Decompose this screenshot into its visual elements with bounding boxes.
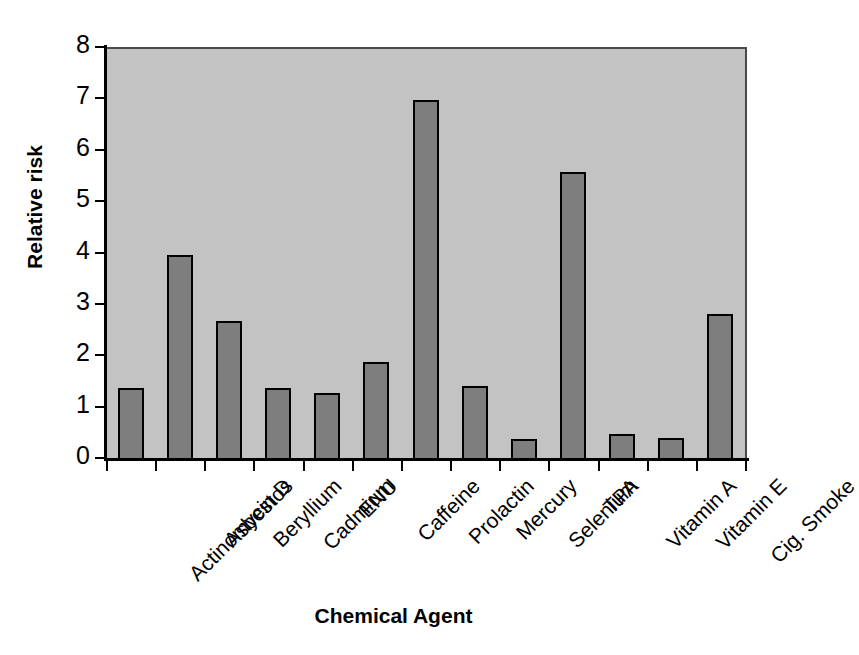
x-axis-tick: [647, 460, 649, 471]
x-axis-tick: [696, 460, 698, 471]
bar: [609, 434, 635, 460]
y-axis-tick: [95, 303, 106, 305]
plot-area: [106, 47, 747, 460]
y-axis-tick: [95, 200, 106, 202]
y-axis-tick: [95, 149, 106, 151]
y-axis-tick-label: 4: [50, 236, 90, 265]
y-axis-tick-label: 8: [50, 30, 90, 59]
y-axis-tick-label: 1: [50, 390, 90, 419]
bar: [560, 172, 586, 460]
x-axis-tick: [352, 460, 354, 471]
bar: [314, 393, 340, 460]
x-axis-tick: [499, 460, 501, 471]
y-axis-tick-label: 3: [50, 287, 90, 316]
bar: [413, 100, 439, 460]
y-axis-tick-label: 6: [50, 133, 90, 162]
bars-group: [106, 49, 745, 460]
x-axis-tick: [450, 460, 452, 471]
x-axis-tick: [401, 460, 403, 471]
x-axis-tick: [745, 460, 747, 471]
y-axis-tick: [95, 252, 106, 254]
bar: [216, 321, 242, 460]
y-axis-tick-group: 012345678: [40, 0, 90, 655]
bar: [511, 439, 537, 460]
y-axis-tick: [95, 97, 106, 99]
x-axis-tick: [204, 460, 206, 471]
bar: [167, 255, 193, 461]
y-axis-tick: [95, 406, 106, 408]
y-axis-tick-label: 2: [50, 338, 90, 367]
y-axis-tick: [95, 354, 106, 356]
x-axis-tick: [155, 460, 157, 471]
y-axis-tick-label: 7: [50, 81, 90, 110]
bar: [363, 362, 389, 460]
bar: [462, 386, 488, 460]
x-axis-tick: [548, 460, 550, 471]
y-axis-tick-label: 0: [50, 441, 90, 470]
bar: [118, 388, 144, 460]
x-axis-title: Chemical Agent: [0, 604, 787, 628]
y-axis-tick-label: 5: [50, 184, 90, 213]
x-axis-tick: [303, 460, 305, 471]
bar: [265, 388, 291, 460]
y-axis-tick: [95, 46, 106, 48]
x-axis-tick: [253, 460, 255, 471]
x-axis-tick: [106, 460, 108, 471]
bar: [707, 314, 733, 460]
y-axis-tick: [95, 457, 106, 459]
x-axis-line: [104, 458, 749, 461]
x-axis-tick: [598, 460, 600, 471]
bar: [658, 438, 684, 460]
